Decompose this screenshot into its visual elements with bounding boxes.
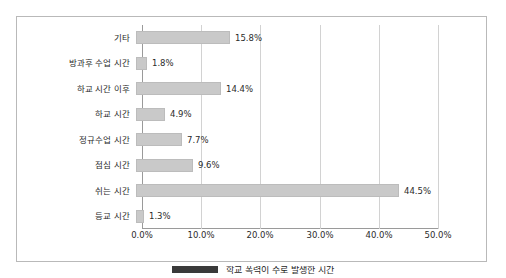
- x-tick-label: 50.0%: [424, 231, 451, 240]
- bar-row: 정규수업 시간7.7%: [17, 127, 488, 153]
- bar[interactable]: [136, 210, 144, 223]
- bar-row: 방과후 수업 시간1.8%: [17, 51, 488, 77]
- x-tick-label: 20.0%: [246, 231, 273, 240]
- legend-swatch: [172, 266, 218, 273]
- bar-row: 쉬는 시간44.5%: [17, 178, 488, 204]
- bar-container: 15.8%: [136, 25, 482, 51]
- category-label: 등교 시간: [17, 212, 136, 221]
- bar[interactable]: [136, 108, 165, 121]
- bar-row: 하교 시간 이후14.4%: [17, 76, 488, 102]
- bar[interactable]: [136, 57, 147, 70]
- bar[interactable]: [136, 159, 193, 172]
- bar-value-label: 7.7%: [187, 136, 209, 145]
- bar-container: 1.8%: [136, 51, 482, 77]
- legend-label: 학교 폭력이 주로 발생한 시간: [226, 266, 333, 275]
- bar-value-label: 44.5%: [404, 187, 431, 196]
- bar-row: 등교 시간1.3%: [17, 204, 488, 230]
- x-tick-label: 0.0%: [131, 231, 153, 240]
- x-tick-label: 40.0%: [365, 231, 392, 240]
- category-label: 쉬는 시간: [17, 187, 136, 196]
- bar[interactable]: [136, 82, 221, 95]
- bar-rows: 기타15.8%방과후 수업 시간1.8%하교 시간 이후14.4%하교 시간4.…: [17, 25, 488, 229]
- category-label: 방과후 수업 시간: [17, 59, 136, 68]
- x-tick-label: 10.0%: [187, 231, 214, 240]
- category-label: 하교 시간 이후: [17, 85, 136, 94]
- bar-value-label: 4.9%: [170, 110, 192, 119]
- bar-row: 하교 시간4.9%: [17, 102, 488, 128]
- bar[interactable]: [136, 133, 182, 146]
- category-label: 정규수업 시간: [17, 136, 136, 145]
- category-label: 점심 시간: [17, 161, 136, 170]
- chart-frame: 기타15.8%방과후 수업 시간1.8%하교 시간 이후14.4%하교 시간4.…: [16, 16, 487, 262]
- chart-screenshot: 기타15.8%방과후 수업 시간1.8%하교 시간 이후14.4%하교 시간4.…: [0, 0, 506, 278]
- bar-value-label: 1.3%: [149, 212, 171, 221]
- chart-legend: 학교 폭력이 주로 발생한 시간: [0, 266, 506, 278]
- bar-container: 9.6%: [136, 153, 482, 179]
- bar-row: 기타15.8%: [17, 25, 488, 51]
- bar-container: 14.4%: [136, 76, 482, 102]
- x-axis-tick-labels: 0.0%10.0%20.0%30.0%40.0%50.0%: [17, 231, 488, 247]
- bar-value-label: 14.4%: [226, 85, 253, 94]
- bar[interactable]: [136, 184, 399, 197]
- category-label: 하교 시간: [17, 110, 136, 119]
- bar-container: 7.7%: [136, 127, 482, 153]
- bar-value-label: 1.8%: [152, 59, 174, 68]
- bar-container: 1.3%: [136, 204, 482, 230]
- bar-value-label: 9.6%: [198, 161, 220, 170]
- x-tick-label: 30.0%: [306, 231, 333, 240]
- bar-container: 44.5%: [136, 178, 482, 204]
- bar[interactable]: [136, 31, 230, 44]
- bar-row: 점심 시간9.6%: [17, 153, 488, 179]
- bar-container: 4.9%: [136, 102, 482, 128]
- bar-value-label: 15.8%: [235, 34, 262, 43]
- category-label: 기타: [17, 34, 136, 43]
